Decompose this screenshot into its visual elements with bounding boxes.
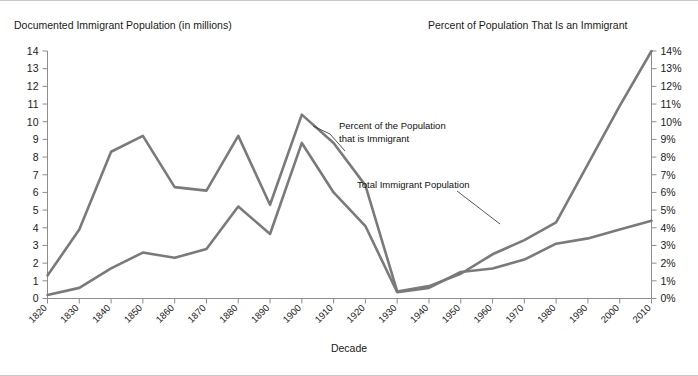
right-tick-label: 14% <box>661 45 682 57</box>
x-tick-label: 2000 <box>598 302 621 325</box>
x-tick-label: 1840 <box>90 302 113 325</box>
x-tick-label: 1920 <box>344 302 367 325</box>
left-tick-label: 13 <box>27 62 39 74</box>
right-tick-label: 10% <box>661 116 682 128</box>
percent-annotation-line2: that is Immigrant <box>339 133 410 144</box>
x-tick-label: 1980 <box>535 302 558 325</box>
x-tick-label: 1990 <box>567 302 590 325</box>
left-tick-label: 7 <box>33 169 39 181</box>
left-axis-ticks: 01234567891011121314 <box>27 45 48 305</box>
right-tick-label: 4% <box>661 222 676 234</box>
right-tick-label: 7% <box>661 169 676 181</box>
x-axis-ticks: 1820183018401850186018701880189019001910… <box>26 299 653 325</box>
right-tick-label: 8% <box>661 151 676 163</box>
x-tick-label: 1860 <box>153 302 176 325</box>
right-tick-label: 1% <box>661 275 676 287</box>
x-tick-label: 1880 <box>217 302 240 325</box>
population-annotation-leader-line <box>457 191 500 224</box>
left-tick-label: 0 <box>33 292 39 304</box>
left-tick-label: 14 <box>27 45 39 57</box>
chart-svg: 01234567891011121314 0%1%2%3%4%5%6%7%8%9… <box>0 1 698 376</box>
x-tick-label: 1830 <box>58 302 81 325</box>
percent-annotation-line1: Percent of the Population <box>339 120 446 131</box>
right-axis-ticks: 0%1%2%3%4%5%6%7%8%9%10%11%12%13%14% <box>652 45 682 305</box>
chart-figure: Documented Immigrant Population (in mill… <box>0 0 698 376</box>
plot-area: 01234567891011121314 0%1%2%3%4%5%6%7%8%9… <box>0 1 698 376</box>
right-tick-label: 12% <box>661 80 682 92</box>
x-tick-label: 1930 <box>376 302 399 325</box>
left-tick-label: 3 <box>33 239 39 251</box>
right-tick-label: 6% <box>661 186 676 198</box>
left-tick-label: 10 <box>27 116 39 128</box>
left-tick-label: 1 <box>33 275 39 287</box>
right-tick-label: 5% <box>661 204 676 216</box>
population-annotation: Total Immigrant Population <box>357 179 469 190</box>
right-tick-label: 13% <box>661 62 682 74</box>
right-tick-label: 3% <box>661 239 676 251</box>
left-tick-label: 2 <box>33 257 39 269</box>
left-tick-label: 11 <box>28 98 39 110</box>
x-tick-label: 1900 <box>281 302 304 325</box>
right-tick-label: 9% <box>661 133 676 145</box>
x-tick-label: 1960 <box>471 302 494 325</box>
left-tick-label: 4 <box>33 222 39 234</box>
left-tick-label: 5 <box>33 204 39 216</box>
x-tick-label: 1950 <box>439 302 462 325</box>
x-tick-label: 1820 <box>26 302 49 325</box>
x-tick-label: 1970 <box>503 302 526 325</box>
right-tick-label: 0% <box>661 292 676 304</box>
x-tick-label: 1890 <box>249 302 272 325</box>
right-tick-label: 11% <box>661 98 681 110</box>
left-tick-label: 12 <box>27 80 39 92</box>
left-tick-label: 8 <box>33 151 39 163</box>
right-tick-label: 2% <box>661 257 676 269</box>
left-tick-label: 6 <box>33 186 39 198</box>
x-tick-label: 2010 <box>630 302 653 325</box>
x-tick-label: 1870 <box>185 302 208 325</box>
x-tick-label: 1940 <box>408 302 431 325</box>
x-tick-label: 1850 <box>122 302 145 325</box>
x-tick-label: 1910 <box>312 302 335 325</box>
left-tick-label: 9 <box>33 133 39 145</box>
